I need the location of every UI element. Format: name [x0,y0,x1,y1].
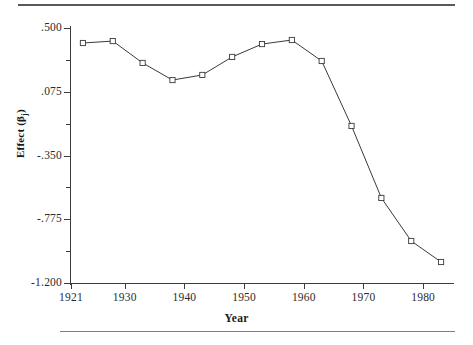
figure-container: .500.075-.350-.775-1.200 192119301940195… [0,0,473,345]
x-axis-title: Year [0,312,473,324]
data-point-marker [259,41,264,46]
data-point-marker [349,123,354,128]
data-point-marker [200,72,205,77]
series-plot [0,0,473,345]
data-point-marker [409,238,414,243]
data-point-marker [110,38,115,43]
data-point-marker [80,40,85,45]
y-axis-title-subscript: j [20,113,29,116]
y-axis-title-close: ) [14,109,26,113]
y-axis-title-main: Effect (β [14,116,26,158]
bottom-horizontal-rule [60,331,455,332]
series-line [83,40,441,262]
data-point-marker [140,60,145,65]
data-point-marker [379,195,384,200]
data-point-marker [438,259,443,264]
data-point-marker [319,58,324,63]
y-axis-title: Effect (βj) [14,38,29,158]
series-marker-group [80,37,443,264]
data-point-marker [170,77,175,82]
data-point-marker [230,54,235,59]
data-point-marker [289,37,294,42]
